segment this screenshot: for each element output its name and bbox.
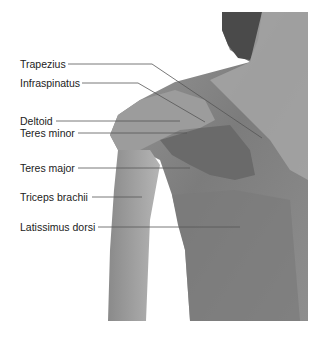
label-triceps-brachii: Triceps brachii: [20, 191, 88, 203]
label-infraspinatus: Infraspinatus: [20, 77, 80, 89]
label-trapezius: Trapezius: [20, 58, 66, 70]
label-deltoid: Deltoid: [20, 115, 53, 127]
arm: [108, 150, 160, 321]
label-teres-minor: Teres minor: [20, 127, 75, 139]
label-latissimus-dorsi: Latissimus dorsi: [20, 221, 95, 233]
latissimus-region: [172, 190, 300, 321]
label-teres-major: Teres major: [20, 162, 75, 174]
anatomy-figure: Trapezius Infraspinatus Deltoid Teres mi…: [0, 0, 323, 339]
